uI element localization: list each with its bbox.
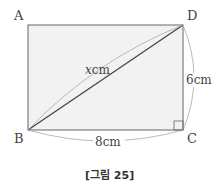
- width-label: 8cm: [95, 135, 121, 149]
- vertex-d-label: D: [187, 8, 197, 23]
- diagonal-label: xcm: [85, 63, 111, 77]
- figure-caption: [그림 25]: [85, 169, 134, 182]
- vertex-b-label: B: [14, 131, 24, 146]
- vertex-a-label: A: [13, 8, 24, 23]
- rectangle-diagram: A D B C xcm 6cm 8cm [그림 25]: [0, 0, 219, 191]
- vertex-c-label: C: [187, 131, 197, 146]
- height-label: 6cm: [186, 73, 212, 87]
- diagonal-unit: cm: [92, 63, 111, 77]
